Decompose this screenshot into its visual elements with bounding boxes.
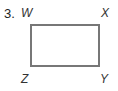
vertex-label-z: Z xyxy=(21,72,28,86)
vertex-label-y: Y xyxy=(100,72,108,86)
vertex-label-x: X xyxy=(101,6,109,20)
problem-number: 3. xyxy=(4,6,15,21)
rectangle-wxyz xyxy=(30,24,100,67)
vertex-label-w: W xyxy=(21,6,32,20)
